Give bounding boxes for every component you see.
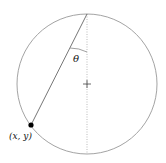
point-marker	[28, 122, 33, 127]
angle-arc	[70, 48, 87, 52]
point-label: (x, y)	[9, 131, 32, 141]
angle-label: θ	[73, 53, 79, 64]
circle-diagram: θ (x, y)	[0, 0, 166, 163]
chord-line	[31, 14, 87, 125]
